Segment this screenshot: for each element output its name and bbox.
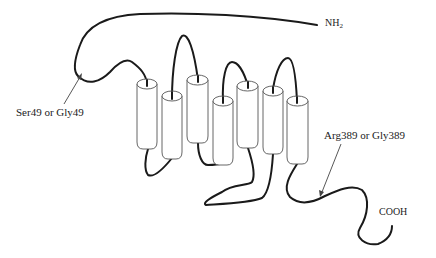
helix-7 <box>287 96 308 164</box>
helix-6 <box>263 86 283 154</box>
helix-2 <box>162 91 182 159</box>
c-terminal-chain <box>287 164 392 244</box>
helix-4 <box>213 96 233 165</box>
n-terminal-chain <box>75 13 317 84</box>
helix-5 <box>237 81 258 148</box>
arg389-gly389-label: Arg389 or Gly389 <box>324 130 405 141</box>
helix-3 <box>187 75 208 143</box>
n-terminus-subscript: 2 <box>339 22 343 30</box>
receptor-topology-diagram: NH2 Ser49 or Gly49 Arg389 or Gly389 COOH <box>0 0 436 258</box>
arrow-arg389 <box>319 144 341 197</box>
arrow-ser49 <box>64 73 82 104</box>
ser49-gly49-label: Ser49 or Gly49 <box>16 107 84 118</box>
c-terminus-label: COOH <box>379 207 407 217</box>
n-terminus-text: NH <box>325 17 339 28</box>
helix-1 <box>137 79 157 149</box>
n-terminus-label: NH2 <box>325 18 343 30</box>
